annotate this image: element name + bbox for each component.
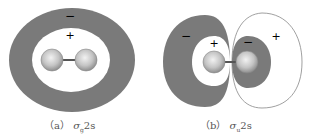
atom-right-icon <box>236 51 258 73</box>
atom-left-icon <box>203 51 225 73</box>
atom-right-icon <box>75 49 97 71</box>
figure-a-sigma-g-2s: − + <box>9 8 135 112</box>
caption-b: （b） σu2s <box>200 117 252 133</box>
caption-a: （a） σg2s <box>44 117 95 133</box>
atom-left-icon <box>41 49 63 71</box>
sign-plus-left-inner: + <box>209 37 218 50</box>
figure-b-sigma-u-2s: − + − + <box>163 13 302 108</box>
sign-minus-left-outer: − <box>181 29 191 43</box>
sign-minus-right-inner: − <box>243 35 253 49</box>
sign-plus-inner: + <box>65 29 74 42</box>
sign-plus-right-outer: + <box>271 30 280 43</box>
caption-b-label: （b） <box>200 120 226 131</box>
caption-a-suffix: 2s <box>84 120 96 131</box>
caption-b-suffix: 2s <box>240 120 252 131</box>
caption-a-symbol: σ <box>73 120 80 131</box>
sign-minus-outer: − <box>65 9 75 23</box>
caption-a-label: （a） <box>44 120 70 131</box>
